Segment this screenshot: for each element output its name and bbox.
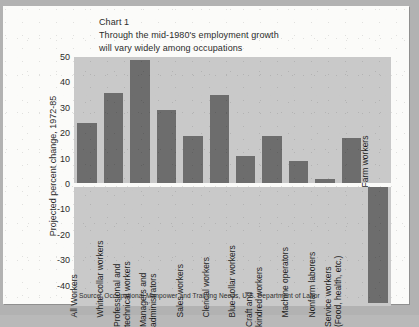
x-axis-category-label: Service workers(Food, health, etc.) bbox=[324, 256, 343, 327]
y-axis-tick-neg20: -20 bbox=[57, 230, 70, 239]
category-label-line: Machine operators bbox=[281, 247, 291, 317]
x-axis-category-label: Machine operators bbox=[281, 247, 291, 317]
plot-area: 50403020100-10-20-30-40 All WorkersWhite… bbox=[74, 57, 391, 306]
x-axis-category-label: Sales workers bbox=[175, 264, 185, 317]
zero-baseline bbox=[74, 183, 391, 187]
category-label-line: Sales workers bbox=[175, 264, 185, 317]
x-axis-category-label: Managers andadministrators bbox=[139, 273, 158, 327]
category-label-line: Nonfarm laborers bbox=[307, 252, 317, 318]
x-axis-category-label: Nonfarm laborers bbox=[307, 252, 317, 318]
category-label-line: All Workers bbox=[69, 274, 79, 317]
document-card: Chart 1 Through the mid-1980's employmen… bbox=[3, 6, 409, 304]
bar bbox=[77, 123, 97, 184]
x-axis-category-label: All Workers bbox=[69, 274, 79, 317]
x-axis-category-label: Clerical workers bbox=[202, 257, 212, 317]
chart-figure: Chart 1 Through the mid-1980's employmen… bbox=[3, 6, 409, 304]
bar bbox=[183, 136, 203, 184]
category-label-line: administrators bbox=[149, 273, 159, 327]
x-axis-category-label: White-collar workers bbox=[96, 241, 106, 318]
chart-title-line-2: will vary widely among occupations bbox=[99, 43, 242, 53]
source-note: Source: Occupational Manpower and Traini… bbox=[79, 292, 320, 299]
y-axis-tick-50: 50 bbox=[60, 53, 70, 62]
y-axis-tick-20: 20 bbox=[60, 129, 70, 138]
bar bbox=[236, 156, 256, 184]
y-axis-tick-0: 0 bbox=[65, 180, 70, 189]
y-axis-tick-neg30: -30 bbox=[57, 256, 70, 265]
bar bbox=[342, 138, 362, 184]
chart-title-line-1: Through the mid-1980's employment growth bbox=[99, 30, 279, 40]
y-axis-tick-40: 40 bbox=[60, 78, 70, 87]
bar bbox=[157, 110, 177, 184]
category-label-line: Blue-collar workers bbox=[228, 245, 238, 317]
y-axis-tick-10: 10 bbox=[60, 154, 70, 163]
x-axis-category-label: Farm workers bbox=[360, 136, 370, 188]
bar bbox=[262, 136, 282, 184]
category-label-line: White-collar workers bbox=[96, 241, 106, 318]
bar bbox=[289, 161, 309, 184]
bar bbox=[368, 184, 388, 303]
bar bbox=[104, 93, 124, 184]
category-label-line: Farm workers bbox=[360, 136, 370, 188]
bar bbox=[210, 95, 230, 184]
bar-series: All WorkersWhite-collar workersProfessio… bbox=[74, 57, 391, 306]
bar bbox=[130, 60, 150, 185]
chart-number-label: Chart 1 bbox=[99, 17, 129, 27]
category-label-line: (Food, health, etc.) bbox=[334, 256, 344, 327]
y-axis-tick-30: 30 bbox=[60, 103, 70, 112]
category-label-line: Clerical workers bbox=[202, 257, 212, 317]
x-axis-category-label: Blue-collar workers bbox=[228, 245, 238, 317]
y-axis-tick-neg10: -10 bbox=[57, 205, 70, 214]
